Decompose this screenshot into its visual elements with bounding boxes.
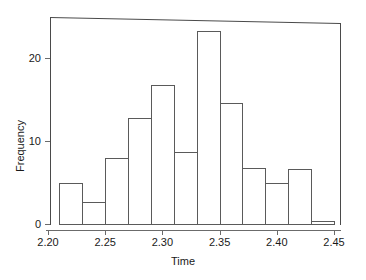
x-axis-tick	[162, 230, 163, 235]
y-axis-label: Frequency	[14, 86, 26, 206]
x-axis-tick	[105, 230, 106, 235]
histogram-bar	[197, 31, 221, 225]
x-axis-tick-label: 2.20	[37, 236, 58, 248]
x-axis-tick	[334, 230, 335, 235]
x-axis-tick-label: 2.30	[152, 236, 173, 248]
histogram-bar	[151, 85, 175, 225]
histogram-bar	[242, 168, 266, 225]
x-axis-tick	[48, 230, 49, 235]
histogram-bar	[174, 152, 198, 225]
histogram-figure: 01020 Frequency 2.202.252.302.352.402.45…	[0, 0, 366, 280]
x-axis-tick-label: 2.25	[94, 236, 115, 248]
y-axis-tick-label: 20	[0, 52, 41, 64]
histogram-bar	[105, 158, 129, 225]
y-axis-tick	[45, 224, 50, 225]
x-axis-tick-label: 2.35	[209, 236, 230, 248]
x-axis-label: Time	[0, 255, 366, 267]
y-axis-tick-label: 0	[0, 218, 41, 230]
histogram-bar	[311, 221, 335, 225]
histogram-bar	[220, 103, 244, 225]
x-axis-tick	[277, 230, 278, 235]
x-axis-tick-label: 2.40	[266, 236, 287, 248]
histogram-bar	[288, 169, 312, 225]
histogram-bar	[265, 183, 289, 225]
histogram-bar	[59, 183, 83, 226]
x-axis-tick-label: 2.45	[323, 236, 344, 248]
x-axis-tick	[220, 230, 221, 235]
x-axis-line	[46, 230, 341, 231]
y-axis-tick	[45, 58, 50, 59]
histogram-bar	[82, 202, 106, 225]
histogram-bar	[128, 118, 152, 225]
y-axis-tick	[45, 141, 50, 142]
